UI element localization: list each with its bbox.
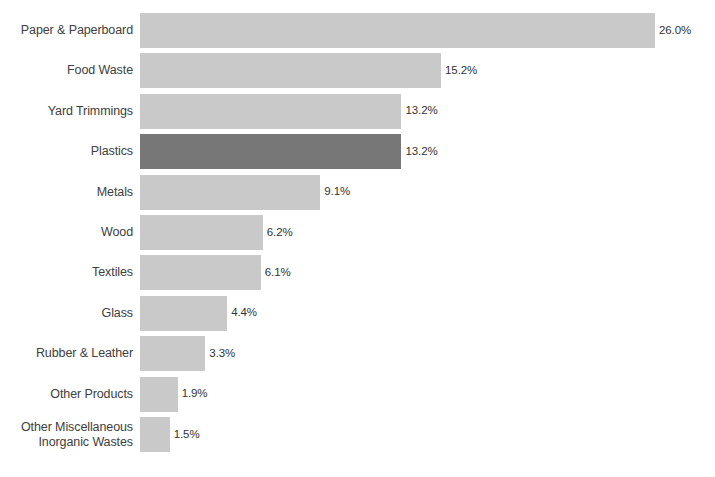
category-label: Textiles	[0, 265, 133, 280]
value-label: 15.2%	[445, 64, 477, 77]
bar	[140, 215, 263, 250]
value-label: 1.5%	[174, 428, 200, 441]
category-label: Food Waste	[0, 63, 133, 78]
bar	[140, 255, 261, 290]
value-label: 13.2%	[405, 104, 437, 117]
bar	[140, 13, 655, 48]
bar	[140, 175, 320, 210]
value-label: 1.9%	[182, 387, 208, 400]
value-label: 13.2%	[405, 145, 437, 158]
bar	[140, 296, 227, 331]
bar-chart: Paper & Paperboard26.0%Food Waste15.2%Ya…	[0, 0, 715, 477]
category-label: Other Miscellaneous Inorganic Wastes	[0, 420, 133, 450]
category-label: Other Products	[0, 387, 133, 402]
value-label: 26.0%	[659, 24, 691, 37]
value-label: 6.1%	[265, 266, 291, 279]
value-label: 4.4%	[231, 306, 257, 319]
bar-highlighted	[140, 134, 401, 169]
bar	[140, 336, 205, 371]
category-label: Paper & Paperboard	[0, 23, 133, 38]
bar	[140, 377, 178, 412]
bar	[140, 94, 401, 129]
bar	[140, 417, 170, 452]
category-label: Yard Trimmings	[0, 104, 133, 119]
category-label: Plastics	[0, 144, 133, 159]
category-label: Glass	[0, 306, 133, 321]
bar	[140, 53, 441, 88]
plot-area: Paper & Paperboard26.0%Food Waste15.2%Ya…	[0, 0, 715, 477]
value-label: 9.1%	[324, 185, 350, 198]
category-label: Metals	[0, 185, 133, 200]
category-label: Rubber & Leather	[0, 346, 133, 361]
category-label: Wood	[0, 225, 133, 240]
value-label: 6.2%	[267, 226, 293, 239]
value-label: 3.3%	[209, 347, 235, 360]
